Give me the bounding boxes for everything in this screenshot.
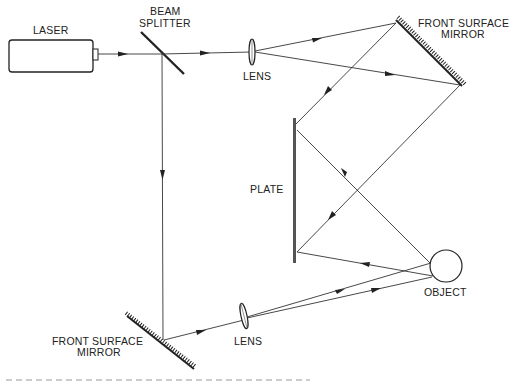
laser-label: LASER — [33, 24, 69, 36]
lens-top: LENS — [243, 39, 271, 82]
lens-top-label: LENS — [243, 70, 271, 82]
front-surface-mirror-top: FRONT SURFACE MIRROR — [396, 17, 509, 86]
beam-splitter: BEAM SPLITTER — [139, 5, 191, 74]
beam-splitter-label-2: SPLITTER — [139, 17, 191, 29]
object: OBJECT — [424, 250, 467, 298]
lens-bottom-label: LENS — [234, 335, 262, 347]
front-surface-mirror-bottom: FRONT SURFACE MIRROR — [52, 313, 196, 369]
plate: PLATE — [250, 118, 296, 263]
holography-diagram: LASER BEAM SPLITTER LENS FRONT SURFACE M… — [0, 0, 514, 381]
mirror-top-label-2: MIRROR — [441, 28, 485, 40]
beam-splitter-label-1: BEAM — [150, 5, 181, 17]
object-label: OBJECT — [424, 286, 467, 298]
mirror-bottom-label-2: MIRROR — [77, 346, 121, 358]
lens-bottom: LENS — [234, 303, 262, 347]
plate-label: PLATE — [250, 183, 283, 195]
laser: LASER — [9, 24, 98, 72]
